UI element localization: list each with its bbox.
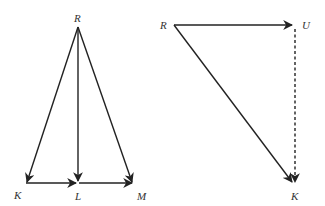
label-k-left: K bbox=[13, 189, 22, 201]
label-l: L bbox=[74, 190, 81, 202]
label-r-right: R bbox=[159, 19, 167, 31]
vector-r-to-k bbox=[27, 27, 78, 182]
label-u: U bbox=[302, 19, 311, 31]
label-m: M bbox=[136, 190, 147, 202]
vector-diagrams: R K L M R U K bbox=[0, 0, 325, 206]
label-r-left: R bbox=[73, 12, 81, 24]
vector-r-to-m bbox=[78, 27, 132, 182]
left-diagram: R K L M bbox=[13, 12, 147, 202]
label-k-right: K bbox=[290, 190, 299, 202]
vector-r-to-k bbox=[174, 25, 292, 182]
right-diagram: R U K bbox=[159, 19, 311, 202]
